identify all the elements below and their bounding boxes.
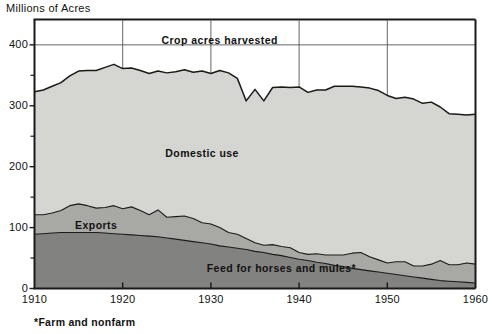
x-tick-1950: 1950 <box>364 293 410 305</box>
x-tick-1960: 1960 <box>453 293 492 305</box>
x-tick-1910: 1910 <box>12 293 58 305</box>
annotation-3: Feed for horses and mules* <box>207 262 356 274</box>
chart-container: Millions of Acres 0100200300400 19101920… <box>0 0 492 334</box>
annotation-2: Exports <box>75 219 117 231</box>
chart-footnote: *Farm and nonfarm <box>34 316 135 328</box>
y-tick-200: 200 <box>0 160 28 172</box>
annotation-0: Crop acres harvested <box>162 34 278 46</box>
y-tick-300: 300 <box>0 99 28 111</box>
x-tick-1920: 1920 <box>100 293 146 305</box>
x-tick-1930: 1930 <box>188 293 234 305</box>
y-tick-400: 400 <box>0 38 28 50</box>
chart-plot-area <box>0 0 492 334</box>
x-tick-1940: 1940 <box>276 293 322 305</box>
y-tick-100: 100 <box>0 221 28 233</box>
annotation-1: Domestic use <box>165 147 239 159</box>
